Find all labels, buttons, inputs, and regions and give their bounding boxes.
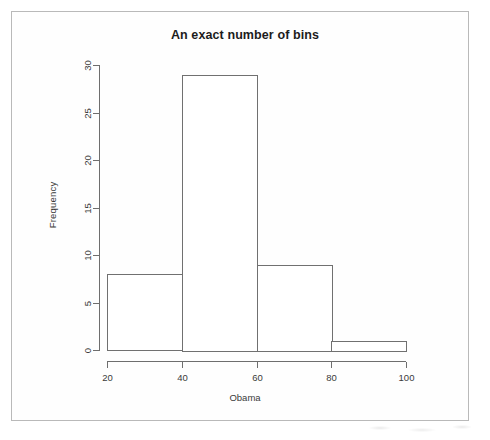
y-tick-label: 30 — [82, 60, 93, 71]
histogram-bar — [108, 275, 183, 351]
x-axis-ticks: 20406080100 — [102, 362, 414, 384]
y-tick-label: 10 — [82, 250, 93, 261]
y-tick-label: 0 — [82, 348, 93, 353]
x-tick-label: 100 — [399, 372, 415, 383]
x-tick-label: 20 — [102, 372, 113, 383]
histogram-bar — [183, 76, 258, 352]
scanned-page: An exact number of bins 051015202530 204… — [0, 0, 490, 440]
x-tick-label: 40 — [177, 372, 188, 383]
y-tick-label: 15 — [82, 203, 93, 214]
plot-axes-and-bars: 051015202530 20406080100 — [0, 0, 490, 440]
y-tick-label: 5 — [82, 301, 93, 306]
y-tick-label: 25 — [82, 108, 93, 119]
x-axis-label: Obama — [0, 392, 490, 403]
bars-group — [108, 76, 407, 352]
histogram-bar — [258, 266, 333, 352]
histogram-plot: An exact number of bins 051015202530 204… — [0, 0, 490, 440]
x-tick-label: 60 — [252, 372, 263, 383]
y-tick-label: 20 — [82, 155, 93, 166]
y-axis-ticks: 051015202530 — [82, 60, 100, 353]
y-axis-label: Frequency — [47, 182, 58, 229]
histogram-bar — [332, 342, 407, 352]
x-tick-label: 80 — [326, 372, 337, 383]
